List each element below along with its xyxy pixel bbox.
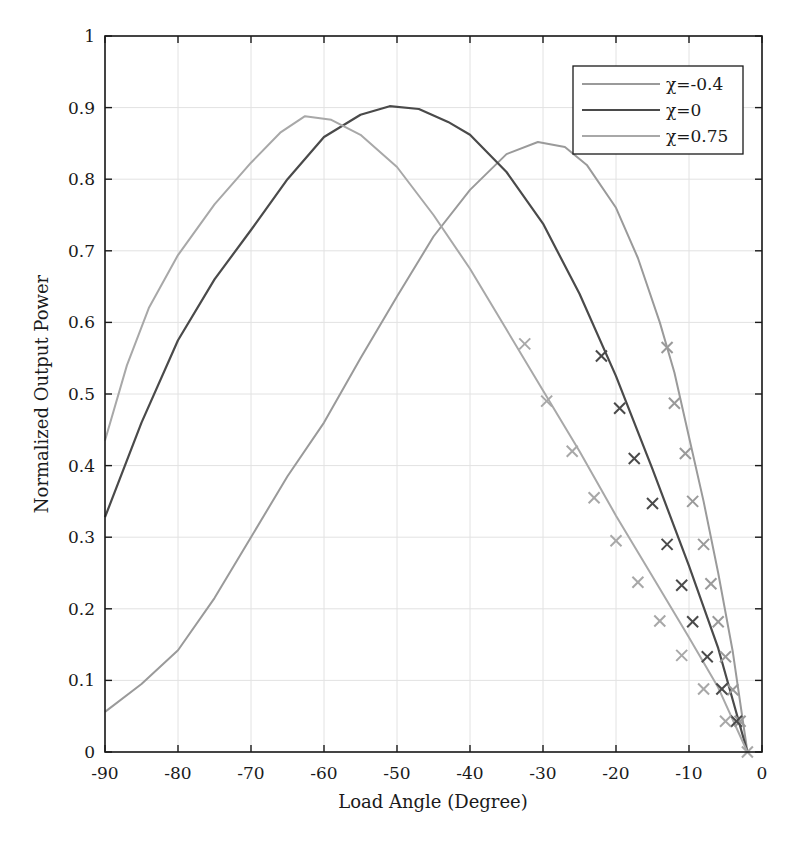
- x-tick-label: -60: [310, 763, 337, 783]
- y-tick-label: 0.2: [68, 599, 95, 619]
- x-marker: [654, 615, 665, 626]
- x-tick-label: -40: [456, 763, 483, 783]
- x-marker: [632, 577, 643, 588]
- legend-label-2: χ=0.75: [666, 126, 728, 146]
- x-marker: [720, 716, 731, 727]
- x-axis-title: Load Angle (Degree): [338, 791, 528, 812]
- x-tick-label: 0: [757, 763, 768, 783]
- y-tick-label: 0.3: [68, 527, 95, 547]
- data-series: [105, 106, 753, 757]
- x-marker: [705, 578, 716, 589]
- x-marker: [676, 580, 687, 591]
- y-tick-label: 0.9: [68, 98, 95, 118]
- y-tick-label: 1: [84, 26, 95, 46]
- x-tick-label: -70: [237, 763, 264, 783]
- x-marker: [662, 342, 673, 353]
- x-marker: [698, 539, 709, 550]
- legend: χ=-0.4 χ=0 χ=0.75: [573, 66, 743, 154]
- series-line-2: [105, 116, 747, 752]
- x-marker: [713, 616, 724, 627]
- x-marker: [698, 683, 709, 694]
- series-line-0: [105, 142, 747, 752]
- x-marker: [676, 650, 687, 661]
- legend-label-0: χ=-0.4: [666, 74, 723, 94]
- x-tick-label: -20: [602, 763, 629, 783]
- y-tick-label: 0.8: [68, 169, 95, 189]
- y-tick-label: 0.7: [68, 241, 95, 261]
- x-tick-label: -10: [675, 763, 702, 783]
- x-marker: [589, 492, 600, 503]
- y-axis-title: Normalized Output Power: [31, 274, 52, 513]
- legend-label-1: χ=0: [666, 100, 701, 120]
- x-tick-label: -90: [91, 763, 118, 783]
- x-tick-label: -30: [529, 763, 556, 783]
- y-tick-label: 0: [84, 742, 95, 762]
- x-tick-label: -50: [383, 763, 410, 783]
- x-marker: [662, 539, 673, 550]
- x-marker: [567, 446, 578, 457]
- chart: -90-80-70-60-50-40-30-20-10000.10.20.30.…: [0, 0, 797, 844]
- y-tick-label: 0.4: [68, 456, 95, 476]
- x-marker: [702, 651, 713, 662]
- x-tick-label: -80: [164, 763, 191, 783]
- x-marker: [669, 398, 680, 409]
- y-tick-label: 0.1: [68, 670, 95, 690]
- y-tick-label: 0.6: [68, 312, 95, 332]
- x-marker: [519, 338, 530, 349]
- series-line-1: [105, 106, 747, 752]
- x-marker: [596, 351, 607, 362]
- y-tick-label: 0.5: [68, 384, 95, 404]
- x-marker: [629, 453, 640, 464]
- x-marker: [647, 498, 658, 509]
